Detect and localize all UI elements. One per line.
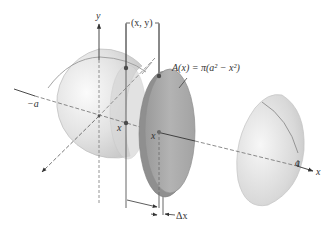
point-right-x — [157, 130, 161, 134]
delta-x-label: Δx — [176, 210, 187, 221]
point-right-top — [157, 74, 161, 78]
delta-x-indicator — [127, 200, 175, 215]
point-left-x — [124, 121, 128, 125]
sphere-slicing-diagram: y (x, y) A(x) = π(a² − x²) −a x x a x Δx — [0, 0, 327, 238]
neg-a-label: −a — [27, 98, 39, 109]
x-marker-left-label: x — [116, 122, 122, 133]
x-marker-right-label: x — [150, 130, 156, 141]
point-left-top — [124, 66, 128, 70]
y-axis-label: y — [95, 10, 101, 21]
x-axis-label: x — [315, 166, 321, 177]
area-formula-label: A(x) = π(a² − x²) — [171, 62, 240, 74]
origin-point — [98, 115, 101, 118]
cross-section-disc — [139, 69, 195, 197]
sphere-left-solid — [48, 49, 146, 159]
sphere-right-cap — [237, 95, 304, 206]
pos-a-label: a — [295, 157, 300, 168]
point-leader-line — [142, 62, 152, 74]
point-label: (x, y) — [131, 17, 153, 29]
